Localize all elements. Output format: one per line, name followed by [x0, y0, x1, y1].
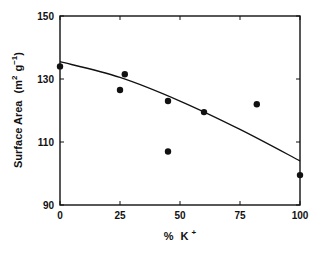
plot-frame [60, 16, 300, 205]
data-point [117, 87, 123, 93]
x-tick-label: 25 [114, 210, 126, 221]
x-axis-title-unit: K [181, 230, 189, 242]
x-tick-label: 0 [57, 210, 63, 221]
y-axis-title-units-open: (m [12, 80, 24, 94]
x-axis-title-percent: % [164, 230, 174, 242]
y-tick-label: 110 [38, 137, 55, 148]
x-axis-title-sup: + [192, 228, 197, 237]
data-point [297, 172, 303, 178]
x-tick-label: 50 [174, 210, 186, 221]
scatter-chart: 0255075100 90110130150 % K + Surface Are… [0, 0, 316, 255]
data-point [57, 63, 63, 69]
y-tick-label: 130 [37, 74, 54, 85]
data-point [122, 71, 128, 77]
data-point [201, 109, 207, 115]
y-axis-title: Surface Area (m2g−1) [10, 52, 24, 168]
x-axis-title: % K + [164, 228, 197, 242]
svg-text:Surface Area (m2g−1): Surface Area (m2g−1) [10, 52, 24, 168]
x-axis-ticks: 0255075100 [57, 16, 309, 221]
fit-curve [60, 62, 300, 161]
x-tick-label: 100 [292, 210, 309, 221]
y-axis-title-units-close: ) [12, 52, 24, 56]
y-axis-title-units-sup: 2 [10, 75, 19, 80]
y-axis-title-units-g: g [12, 65, 24, 72]
data-point [165, 148, 171, 154]
y-tick-label: 90 [43, 200, 55, 211]
data-point [165, 98, 171, 104]
y-axis-ticks: 90110130150 [37, 11, 300, 211]
data-point [254, 101, 260, 107]
data-points [57, 63, 303, 178]
y-tick-label: 150 [37, 11, 54, 22]
x-tick-label: 75 [234, 210, 246, 221]
y-axis-title-main: Surface Area [12, 100, 24, 168]
